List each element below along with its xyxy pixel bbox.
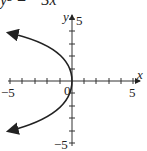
- parabola-upper-branch: [9, 33, 72, 81]
- x-axis-label: x: [137, 68, 143, 81]
- x-min-label: −5: [1, 86, 15, 99]
- origin-label: 0: [64, 84, 71, 97]
- y-max-label: 5: [76, 14, 83, 27]
- parabola-plot: [0, 0, 147, 151]
- parabola-lower-branch: [9, 81, 72, 131]
- y-axis-label: y: [63, 10, 69, 23]
- y-min-label: −5: [54, 138, 68, 151]
- x-max-label: 5: [129, 86, 136, 99]
